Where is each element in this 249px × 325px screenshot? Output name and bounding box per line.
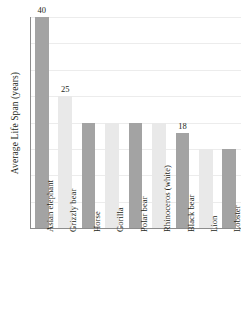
x-axis-tick-labels: Asian elephantGrizzly bearHorseGorillaPo… <box>30 232 241 324</box>
x-tick-label: Polar bear <box>139 196 149 232</box>
y-axis-line <box>30 17 31 229</box>
x-tick-label: Horse <box>92 211 102 232</box>
bar-series: 402518 <box>30 17 241 228</box>
bar-slot <box>222 17 236 228</box>
x-tick-label: Grizzly bear <box>68 189 78 232</box>
bar-chart: Average Life Span (years) 402518 Asian e… <box>0 0 249 325</box>
x-tick-label: Lion <box>209 216 219 232</box>
x-tick-label: Lobster <box>232 205 242 232</box>
bar-slot <box>199 17 213 228</box>
x-tick-label: Asian elephant <box>45 180 55 232</box>
x-tick-label: Rhinoceros (white) <box>162 165 172 232</box>
bar-slot <box>105 17 119 228</box>
bar-slot <box>82 17 96 228</box>
x-tick-label: Black bear <box>186 195 196 232</box>
bar-value-label: 40 <box>29 5 55 15</box>
x-tick-label: Gorilla <box>115 207 125 232</box>
bar-value-label: 18 <box>170 121 196 131</box>
bar-value-label: 25 <box>52 84 78 94</box>
plot-area: 402518 <box>30 17 241 228</box>
y-axis-title: Average Life Span (years) <box>10 33 20 213</box>
